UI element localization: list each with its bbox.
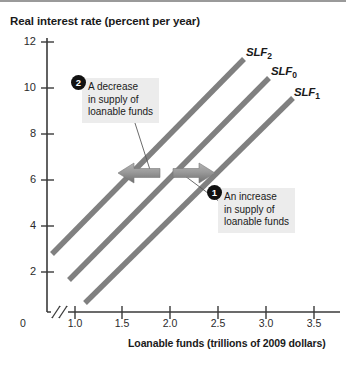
y-tick-label-2: 2 [12, 265, 36, 277]
chart-canvas [0, 0, 346, 366]
callout-increase: An increase in supply of loanable funds [218, 188, 295, 233]
y-tick-label-8: 8 [12, 127, 36, 139]
y-tick-label-10: 10 [12, 81, 36, 93]
y-tick-label-4: 4 [12, 219, 36, 231]
loanable-funds-supply-chart: Real interest rate (percent per year) [0, 0, 346, 366]
callout-decrease-line-1: A decrease [88, 81, 153, 94]
callout-increase-line-3: loanable funds [224, 216, 289, 229]
callout-decrease: A decrease in supply of loanable funds [82, 78, 159, 123]
x-tick-label-2-0: 2.0 [152, 317, 188, 329]
y-tick-label-6: 6 [12, 173, 36, 185]
x-tick-label-1-5: 1.5 [104, 317, 140, 329]
curve-label-slf0: SLF0 [271, 65, 297, 80]
callout-increase-line-1: An increase [224, 191, 289, 204]
curve-label-slf0-sub: 0 [292, 70, 297, 80]
callout-decrease-badge: 2 [71, 75, 86, 90]
curve-label-slf1: SLF1 [294, 86, 320, 101]
curve-label-slf0-text: SLF [271, 65, 292, 77]
curve-label-slf2: SLF2 [246, 46, 272, 61]
x-tick-label-3-5: 3.5 [296, 317, 332, 329]
x-origin-label: 0 [5, 317, 41, 329]
curve-label-slf1-text: SLF [294, 86, 315, 98]
curve-label-slf1-sub: 1 [315, 91, 320, 101]
x-tick-label-3-0: 3.0 [248, 317, 284, 329]
callout-decrease-line-2: in supply of [88, 94, 153, 107]
y-tick-label-12: 12 [12, 35, 36, 47]
x-tick-label-2-5: 2.5 [200, 317, 236, 329]
curve-label-slf2-sub: 2 [267, 51, 272, 61]
callout-increase-line-2: in supply of [224, 204, 289, 217]
callout-decrease-line-3: loanable funds [88, 106, 153, 119]
x-tick-label-1-0: 1.0 [57, 317, 93, 329]
x-axis-title: Loanable funds (trillions of 2009 dollar… [128, 337, 326, 349]
curve-label-slf2-text: SLF [246, 46, 267, 58]
callout-increase-badge: 1 [207, 185, 222, 200]
